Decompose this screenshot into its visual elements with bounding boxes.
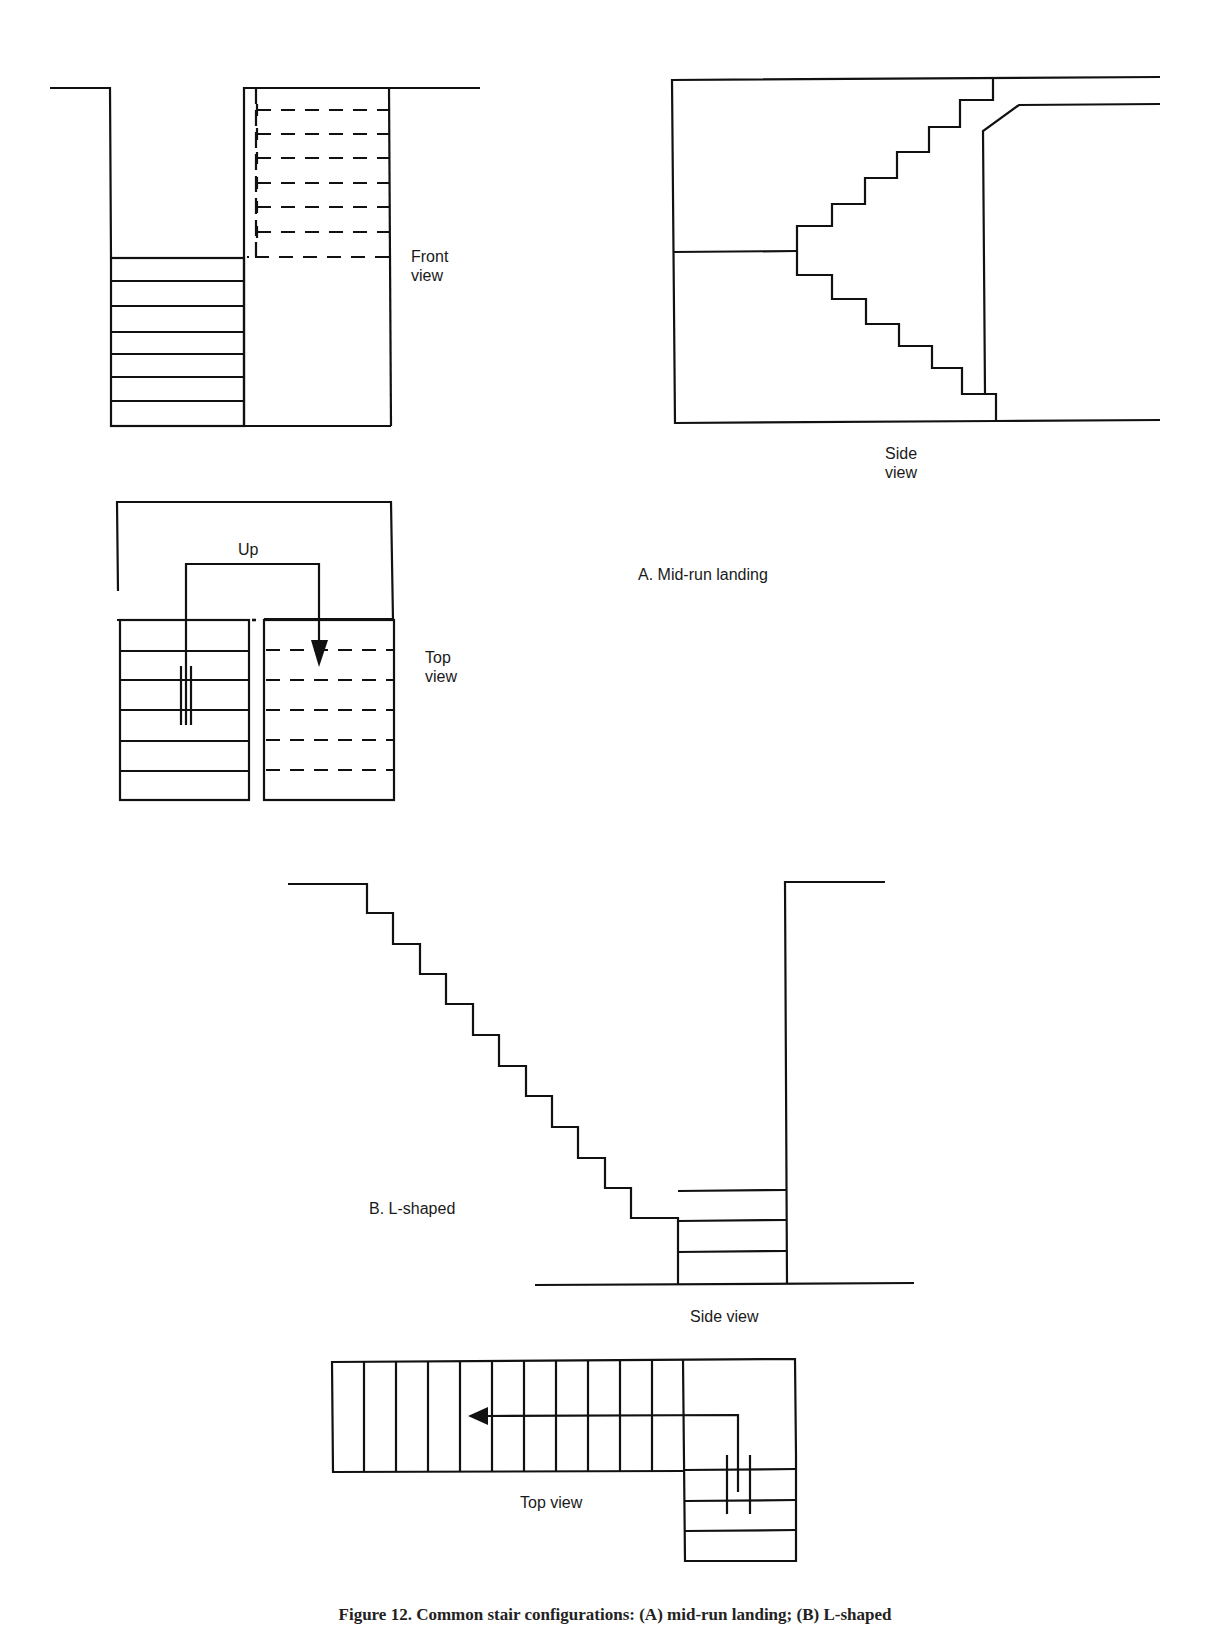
b-side-view-drawing [288,882,914,1285]
figure-caption: Figure 12. Common stair configurations: … [0,1605,1230,1625]
a-top-view-label: Top view [425,648,457,686]
b-top-view-label: Top view [520,1493,582,1512]
a-side-view-label: Side view [885,444,917,482]
a-direction-label: Up [238,540,258,559]
b-top-view-drawing [332,1359,796,1561]
b-side-view-label: Side view [690,1307,758,1326]
a-section-title: A. Mid-run landing [638,565,768,584]
a-up-arrow-icon [311,640,328,667]
b-section-title: B. L-shaped [369,1199,455,1218]
b-direction-arrow-icon [468,1407,488,1425]
a-front-view-label: Front view [411,247,448,285]
a-side-view-drawing [672,77,1160,423]
